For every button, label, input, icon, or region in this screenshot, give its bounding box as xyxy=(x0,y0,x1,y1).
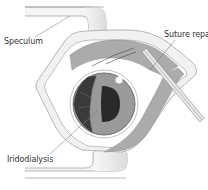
speculum-label: Speculum xyxy=(4,37,43,46)
corneal-reflex xyxy=(116,77,123,84)
iridodialysis-label: Iridodialysis xyxy=(7,155,53,164)
speculum-leader xyxy=(35,16,70,37)
suture-repair-label: Suture repair xyxy=(164,30,208,39)
